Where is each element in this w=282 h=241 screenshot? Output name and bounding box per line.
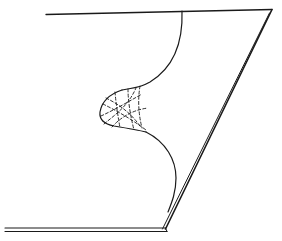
diagram-canvas: Folded sheet (parallelogram outline) wit… [0, 0, 282, 241]
top-edge [46, 10, 272, 15]
bottom-edge [5, 228, 167, 232]
fold-curve-upper [122, 11, 182, 90]
folded-sheet-diagram [0, 0, 282, 241]
cusp-mesh [101, 86, 148, 130]
fold-curve-lower [146, 132, 176, 212]
